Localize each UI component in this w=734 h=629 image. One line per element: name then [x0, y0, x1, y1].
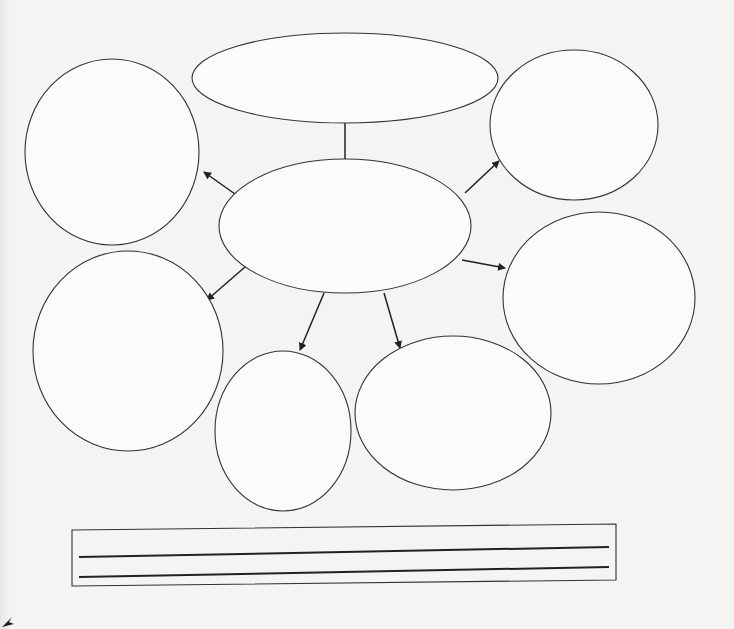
arrow-to-upper-left [204, 172, 235, 194]
bubble-top[interactable] [192, 33, 498, 123]
bubble-center[interactable] [219, 159, 471, 293]
mind-map-worksheet [0, 0, 734, 629]
arrow-to-bottom-right [384, 293, 400, 348]
bubble-upper-right[interactable] [490, 50, 658, 200]
bubble-upper-left[interactable] [25, 59, 199, 245]
writing-line-2[interactable] [79, 567, 609, 577]
bubble-bottom-center[interactable] [215, 351, 351, 511]
bubble-bottom-right[interactable] [355, 336, 551, 490]
bubble-right[interactable] [503, 212, 695, 384]
idea-bubbles [25, 33, 695, 511]
mind-map-diagram [0, 0, 734, 629]
scan-corner-mark [2, 617, 14, 627]
arrow-to-lower-left [207, 267, 245, 300]
arrow-to-right [462, 260, 505, 268]
arrow-to-bottom-center [300, 293, 324, 350]
writing-line-1[interactable] [79, 547, 609, 557]
arrow-to-upper-right [465, 161, 499, 193]
bubble-lower-left[interactable] [33, 251, 223, 451]
answer-box [72, 524, 616, 586]
